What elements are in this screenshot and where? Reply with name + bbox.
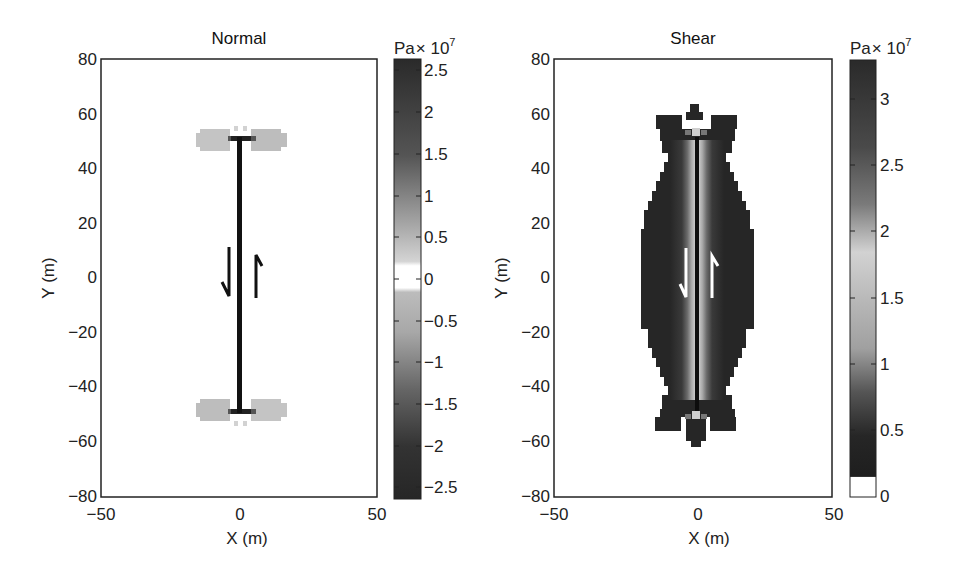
shear-fault-line (695, 137, 699, 411)
svg-text:Pa× 107: Pa× 107 (850, 36, 911, 58)
svg-text:1: 1 (424, 187, 433, 206)
svg-text:1.5: 1.5 (880, 289, 904, 308)
normal-title: Normal (212, 29, 267, 48)
shear-y-ticks: 80 60 40 20 0 −20 −40 −60 −80 (521, 50, 550, 506)
svg-text:0.5: 0.5 (880, 421, 904, 440)
svg-text:2: 2 (880, 222, 889, 241)
svg-text:0: 0 (424, 270, 433, 289)
svg-text:−1: −1 (424, 353, 443, 372)
svg-text:2.5: 2.5 (424, 61, 448, 80)
svg-text:80: 80 (78, 50, 97, 69)
svg-text:0: 0 (88, 268, 97, 287)
normal-colorbar-unit: Pa× 107 (394, 36, 455, 58)
svg-text:0: 0 (235, 505, 244, 524)
svg-text:−80: −80 (521, 487, 550, 506)
shear-x-label: X (m) (688, 529, 730, 548)
svg-text:−20: −20 (521, 323, 550, 342)
svg-text:−40: −40 (68, 377, 97, 396)
svg-text:−50: −50 (540, 505, 569, 524)
normal-x-label: X (m) (226, 529, 268, 548)
svg-text:0: 0 (880, 487, 889, 506)
svg-text:−0.5: −0.5 (424, 312, 458, 331)
shear-lower-tip (692, 411, 700, 419)
normal-y-ticks: 80 60 40 20 0 −20 −40 −60 −80 (68, 50, 97, 506)
svg-text:80: 80 (531, 50, 550, 69)
svg-text:20: 20 (78, 214, 97, 233)
svg-text:60: 60 (531, 105, 550, 124)
svg-text:−1.5: −1.5 (424, 395, 458, 414)
svg-text:3: 3 (880, 90, 889, 109)
figure: Normal (0, 0, 967, 582)
svg-text:50: 50 (368, 505, 387, 524)
shear-title: Shear (670, 29, 716, 48)
svg-text:40: 40 (531, 159, 550, 178)
svg-text:−40: −40 (521, 377, 550, 396)
svg-text:2.5: 2.5 (880, 156, 904, 175)
shear-x-ticks: −50 0 50 (540, 505, 844, 524)
svg-text:−2.5: −2.5 (424, 478, 458, 497)
svg-text:−60: −60 (521, 432, 550, 451)
normal-fault-line (237, 137, 242, 413)
normal-colorbar: 2.5 2 1.5 1 0.5 0 −0.5 −1 −1.5 −2 −2.5 P… (394, 36, 458, 499)
svg-text:0: 0 (541, 268, 550, 287)
svg-text:1: 1 (880, 355, 889, 374)
svg-text:Pa× 107: Pa× 107 (394, 36, 455, 58)
shear-upper-tip (692, 128, 700, 136)
svg-text:−60: −60 (68, 432, 97, 451)
svg-text:60: 60 (78, 105, 97, 124)
svg-text:50: 50 (825, 505, 844, 524)
svg-text:2: 2 (424, 103, 433, 122)
svg-text:0: 0 (693, 505, 702, 524)
shear-panel: Shear (492, 29, 911, 548)
normal-y-label: Y (m) (39, 257, 58, 298)
svg-text:1.5: 1.5 (424, 145, 448, 164)
svg-text:20: 20 (531, 214, 550, 233)
svg-text:40: 40 (78, 159, 97, 178)
svg-text:0.5: 0.5 (424, 228, 448, 247)
normal-x-ticks: −50 0 50 (87, 505, 387, 524)
svg-text:−80: −80 (68, 487, 97, 506)
svg-text:−20: −20 (68, 323, 97, 342)
svg-text:−50: −50 (87, 505, 116, 524)
shear-colorbar: 3 2.5 2 1.5 1 0.5 0 Pa× 107 (850, 36, 911, 506)
svg-text:−2: −2 (424, 437, 443, 456)
shear-colorbar-unit: Pa× 107 (850, 36, 911, 58)
shear-y-label: Y (m) (492, 257, 511, 298)
normal-panel: Normal (39, 29, 458, 548)
